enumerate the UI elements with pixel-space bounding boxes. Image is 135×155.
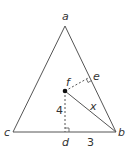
label-f: f bbox=[66, 76, 72, 89]
label-d: d bbox=[62, 136, 70, 149]
label-fb-length: x bbox=[89, 100, 97, 113]
point-f bbox=[63, 89, 68, 94]
label-db-length: 3 bbox=[87, 136, 94, 149]
label-e: e bbox=[93, 70, 100, 83]
label-a: a bbox=[62, 10, 69, 23]
label-b: b bbox=[118, 126, 125, 139]
label-c: c bbox=[4, 126, 10, 139]
label-fd-length: 4 bbox=[56, 104, 63, 117]
side-ab bbox=[65, 26, 116, 132]
triangle-diagram: a b c d e f 4 x 3 bbox=[0, 0, 135, 155]
right-angle-marker-d bbox=[65, 128, 69, 132]
